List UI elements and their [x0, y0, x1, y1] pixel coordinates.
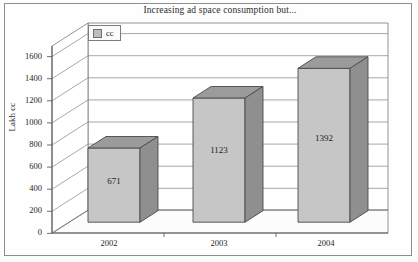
y-tick-1600: 1600	[8, 51, 42, 61]
y-tick-200: 200	[8, 205, 42, 215]
bar-value-2004: 1392	[299, 133, 349, 143]
bar-value-2003: 1123	[194, 145, 244, 155]
legend-color-swatch-icon	[93, 29, 102, 38]
x-axis-ticks	[164, 233, 276, 237]
y-tick-1200: 1200	[8, 95, 42, 105]
x-tick-2002: 2002	[86, 238, 132, 248]
y-tick-800: 800	[8, 139, 42, 149]
bar-value-2002: 671	[89, 176, 139, 186]
y-tick-1000: 1000	[8, 117, 42, 127]
y-tick-600: 600	[8, 161, 42, 171]
y-tick-1400: 1400	[8, 73, 42, 83]
chart-screenshot: Increasing ad space consumption but...	[0, 0, 418, 262]
y-axis-ticks	[47, 57, 52, 234]
y-tick-0: 0	[8, 227, 42, 237]
legend-entry-label: cc	[106, 29, 114, 38]
chart-plot-area	[0, 0, 418, 262]
left-wall	[52, 23, 88, 233]
x-tick-2004: 2004	[303, 238, 349, 248]
x-tick-2003: 2003	[196, 238, 242, 248]
y-tick-400: 400	[8, 183, 42, 193]
chart-legend: cc	[88, 25, 121, 41]
